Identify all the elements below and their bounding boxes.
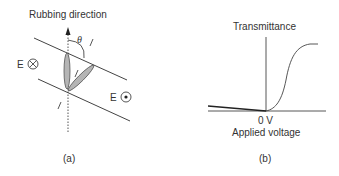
tick-mark [58,102,61,109]
rubbing-arrow-icon [66,27,71,35]
tick-mark [75,70,78,77]
y-axis-label: Transmittance [233,21,296,32]
x-tick-label-0v: 0 V [258,115,273,126]
panel-b: Transmittance 0 V Applied voltage (b) [208,21,326,164]
caption-b: (b) [259,153,271,164]
theta-label: θ [77,34,82,45]
rubbing-direction-label: Rubbing direction [29,9,107,20]
figure: Rubbing direction θ E E (a) [0,0,339,176]
caption-a: (a) [63,153,75,164]
out-of-page-icon [121,92,131,102]
field-left-label: E [17,59,24,70]
field-right-label: E [110,92,117,103]
panel-a: Rubbing direction θ E E (a) [17,9,131,164]
lc-molecule-tilted [66,63,96,93]
negative-branch-curve [208,106,266,111]
into-page-icon [28,59,38,69]
lc-molecule-vertical [64,53,70,89]
x-axis-label: Applied voltage [232,127,301,138]
transmittance-curve [266,44,318,111]
tick-mark [90,39,93,46]
